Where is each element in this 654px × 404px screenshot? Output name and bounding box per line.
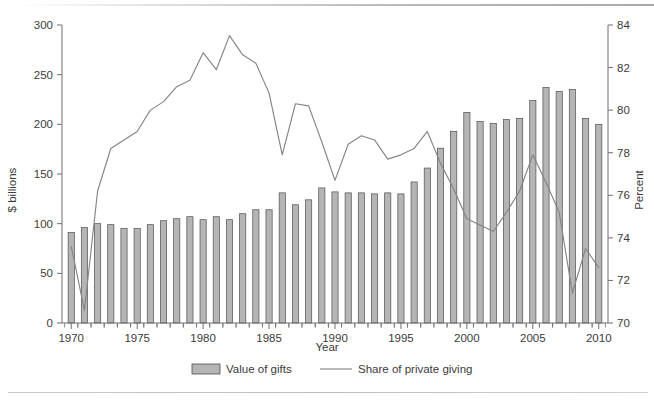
chart-figure: 050100150200250300 7072747678808284 1970… (0, 0, 654, 404)
right-tick-label-74: 74 (617, 232, 630, 244)
bar-1983 (240, 214, 246, 323)
bar-1985 (266, 210, 272, 323)
bar-1984 (253, 210, 259, 323)
bar-2010 (596, 124, 602, 323)
bar-1998 (437, 148, 443, 323)
bar-1992 (358, 193, 364, 323)
left-tick-label-250: 250 (34, 69, 53, 81)
x-tick-label-1995: 1995 (388, 332, 414, 344)
legend-swatch-bar (192, 364, 220, 374)
left-tick-label-100: 100 (34, 218, 53, 230)
bar-1979 (187, 217, 193, 323)
x-axis-title: Year (315, 341, 338, 353)
bar-1975 (134, 229, 140, 323)
x-tick-label-2010: 2010 (586, 332, 612, 344)
bar-2006 (543, 88, 549, 323)
right-tick-label-78: 78 (617, 147, 630, 159)
right-tick-label-76: 76 (617, 189, 630, 201)
bar-1972 (95, 224, 101, 323)
bar-1994 (385, 193, 391, 323)
bar-1986 (279, 193, 285, 323)
bar-series-value-of-gifts (68, 88, 602, 323)
bar-1989 (319, 188, 325, 323)
legend-label-share-of-private-giving: Share of private giving (358, 363, 472, 375)
chart-legend: Value of gifts Share of private giving (192, 363, 472, 375)
bar-1973 (108, 225, 114, 323)
right-axis-title: Percent (633, 169, 645, 209)
right-tick-label-82: 82 (617, 62, 630, 74)
bar-1982 (226, 220, 232, 323)
x-tick-label-1970: 1970 (58, 332, 84, 344)
bar-2001 (477, 121, 483, 323)
legend-label-value-of-gifts: Value of gifts (226, 363, 292, 375)
bar-1995 (398, 194, 404, 323)
left-tick-label-300: 300 (34, 19, 53, 31)
bar-2004 (517, 118, 523, 323)
x-tick-label-1985: 1985 (256, 332, 282, 344)
left-tick-label-150: 150 (34, 168, 53, 180)
right-tick-label-72: 72 (617, 274, 630, 286)
left-tick-label-0: 0 (47, 317, 53, 329)
x-tick-label-2005: 2005 (520, 332, 546, 344)
left-axis: 050100150200250300 (34, 19, 62, 329)
bar-1977 (160, 221, 166, 323)
left-tick-label-200: 200 (34, 118, 53, 130)
bar-1978 (174, 219, 180, 323)
left-tick-label-50: 50 (40, 267, 53, 279)
x-tick-label-1975: 1975 (124, 332, 150, 344)
bar-1993 (371, 194, 377, 323)
x-tick-label-2000: 2000 (454, 332, 480, 344)
bar-1974 (121, 229, 127, 323)
bar-1996 (411, 182, 417, 323)
left-axis-title: $ billions (6, 167, 18, 212)
top-divider-rule (18, 4, 654, 6)
bar-1980 (200, 220, 206, 323)
right-tick-label-80: 80 (617, 104, 630, 116)
bar-2008 (569, 90, 575, 323)
bar-1990 (332, 192, 338, 323)
bar-1997 (424, 168, 430, 323)
bar-2003 (503, 119, 509, 323)
right-tick-label-70: 70 (617, 317, 630, 329)
bottom-divider-rule (8, 392, 648, 393)
bar-2002 (490, 123, 496, 323)
bar-1988 (306, 200, 312, 323)
bar-1976 (147, 225, 153, 323)
bar-1981 (213, 217, 219, 323)
right-tick-label-84: 84 (617, 19, 630, 31)
bar-1970 (68, 233, 74, 323)
bar-1991 (345, 193, 351, 323)
bar-2005 (530, 100, 536, 323)
bar-2009 (582, 118, 588, 323)
bar-1999 (451, 131, 457, 323)
combo-chart-canvas: 050100150200250300 7072747678808284 1970… (0, 0, 654, 404)
x-tick-label-1980: 1980 (190, 332, 216, 344)
right-axis: 7072747678808284 (608, 19, 630, 329)
bar-1987 (292, 205, 298, 323)
